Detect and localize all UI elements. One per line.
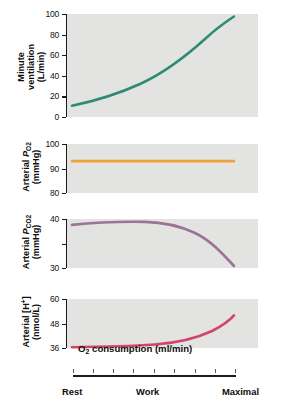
effort-scale-tick-3	[113, 369, 114, 373]
x-axis-title: O2 consumption (ml/min)	[78, 343, 192, 354]
effort-scale-tick-9	[235, 369, 236, 373]
effort-scale-tick-5	[154, 369, 155, 373]
x-axis-title-rest: consumption (ml/min)	[89, 343, 192, 354]
effort-scale-line	[73, 375, 236, 377]
curve-minute-ventilation	[0, 0, 291, 130]
panel-arterial-pco2: 40 30 Arterial PCO2 (mmHg)	[0, 205, 291, 285]
curve-arterial-po2	[0, 130, 291, 205]
effort-scale-tick-6	[174, 369, 175, 373]
exercise-respiratory-response-figure: 100 80 60 40 20 0 Minute ventilation (L/…	[0, 0, 291, 409]
effort-scale-tick-1	[73, 369, 74, 373]
effort-scale-label-maximal: Maximal	[222, 386, 259, 397]
effort-scale-label-work: Work	[136, 386, 159, 397]
curve-arterial-pco2	[0, 205, 291, 285]
x-axis-title-sub: 2	[85, 348, 89, 355]
panel-arterial-po2: 100 90 80 Arterial PO2 (mmHg)	[0, 130, 291, 205]
effort-scale-label-rest: Rest	[62, 386, 82, 397]
panel-minute-ventilation: 100 80 60 40 20 0 Minute ventilation (L/…	[0, 0, 291, 130]
effort-scale-tick-7	[195, 369, 196, 373]
effort-scale-tick-8	[215, 369, 216, 373]
effort-scale-tick-4	[133, 369, 134, 373]
effort-scale-tick-2	[93, 369, 94, 373]
